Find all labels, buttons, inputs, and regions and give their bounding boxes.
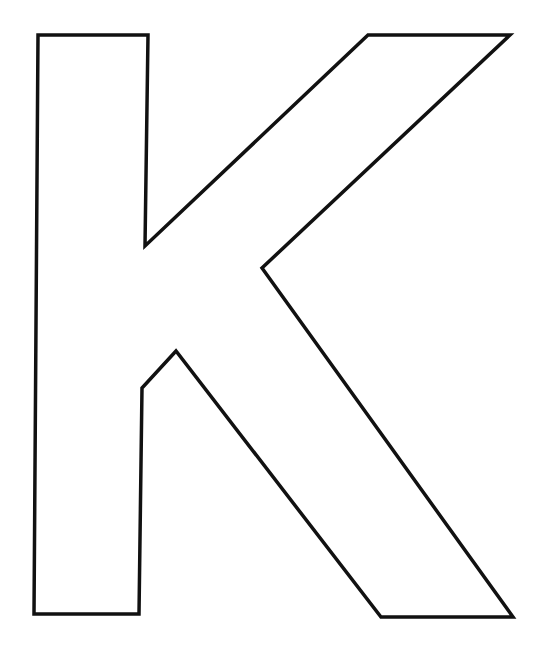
letter-k-figure: K <box>0 0 541 655</box>
k-outline-shape <box>34 35 513 617</box>
k-outline-icon <box>0 0 541 655</box>
